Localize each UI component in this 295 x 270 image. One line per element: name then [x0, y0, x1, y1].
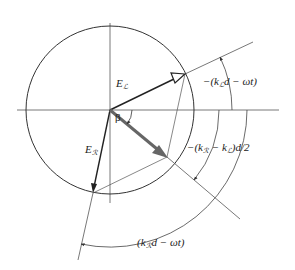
construction-line-1	[167, 74, 185, 157]
circular-polarization-phasor-diagram	[0, 0, 295, 270]
hollow-arrowhead-icon	[171, 73, 185, 83]
beta-label: β	[115, 112, 121, 123]
e-left-ray	[185, 42, 253, 74]
e-left-label: Eℒ	[116, 78, 128, 91]
construction-line-2	[93, 157, 167, 193]
beta-arc	[127, 110, 132, 124]
e-right-label: Eℛ	[85, 144, 98, 157]
angle-left-label: −(kℒd − ωt)	[203, 76, 257, 89]
e-right-ray	[78, 193, 93, 260]
angle-half-label: −(kℛ − kℒ)d/2	[187, 142, 250, 155]
angle-right-label: (kℛd − ωt)	[137, 237, 184, 250]
